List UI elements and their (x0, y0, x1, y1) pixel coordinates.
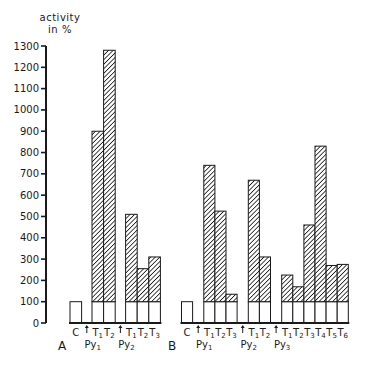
x-category-label: T2 (214, 327, 226, 340)
bar-hatched-segment (137, 269, 149, 302)
bar (226, 294, 237, 323)
arrow-head-icon (85, 325, 89, 328)
y-tick-label: 200 (20, 275, 39, 286)
x-category-label: C (184, 327, 191, 338)
bar-hatched-segment (326, 265, 337, 301)
bar-base (137, 302, 149, 323)
panel-a: CT1T2Py1T1T2T3Py2 (69, 50, 161, 352)
arrow-head-icon (274, 325, 278, 328)
y-tick-label: 1300 (14, 41, 39, 52)
bar-hatched-segment (92, 131, 104, 301)
bar-base (259, 302, 270, 323)
bar-base (149, 302, 161, 323)
bar-base (293, 302, 304, 323)
bar-hatched-segment (282, 275, 293, 302)
activity-bar-chart: activity in % 01002003004005006007008009… (0, 0, 367, 365)
bar (149, 257, 161, 323)
bar-hatched-segment (126, 214, 138, 301)
x-category-label: T2 (103, 327, 115, 340)
bar-base (248, 302, 259, 323)
group-label: Py1 (196, 339, 212, 352)
bar (182, 302, 193, 323)
group-label: Py2 (240, 339, 256, 352)
x-category-label: C (72, 327, 79, 338)
panel-label-b: B (168, 339, 176, 353)
bar-hatched-segment (104, 50, 116, 301)
bar-base (226, 302, 237, 323)
bar-control (182, 302, 193, 323)
arrow-head-icon (118, 325, 122, 328)
bar-base (104, 302, 116, 323)
arrow-head-icon (241, 325, 245, 328)
bar-base (337, 302, 348, 323)
x-category-label: T2 (292, 327, 304, 340)
bar (126, 214, 138, 323)
bar-hatched-segment (315, 146, 326, 302)
y-tick-label: 1000 (14, 104, 39, 115)
y-tick-label: 900 (20, 126, 39, 137)
bar (315, 146, 326, 323)
y-tick-label: 700 (20, 168, 39, 179)
bar-base (92, 302, 104, 323)
bar (248, 180, 259, 323)
bar-hatched-segment (215, 211, 226, 302)
bar (204, 165, 215, 323)
bar-base (215, 302, 226, 323)
x-category-label: T6 (336, 327, 348, 340)
x-category-label: T2 (137, 327, 149, 340)
bar-base (204, 302, 215, 323)
bar-base (326, 302, 337, 323)
bar-hatched-segment (226, 294, 237, 301)
bar (70, 302, 82, 323)
bar-hatched-segment (304, 225, 315, 302)
bar-base (315, 302, 326, 323)
bar (137, 269, 149, 323)
bar (259, 257, 270, 323)
bar-control (70, 302, 82, 323)
y-axis-title-line2: in % (48, 24, 72, 35)
bar (326, 265, 337, 323)
group-label: Py1 (85, 339, 101, 352)
bar (215, 211, 226, 323)
y-tick-label: 1200 (14, 62, 39, 73)
bar (282, 275, 293, 323)
panel-b: CT1T2T3Py1T1T2Py2T1T2T3T4T5T6Py3 (181, 146, 350, 352)
y-axis: 0100200300400500600700800900100011001200… (14, 41, 46, 329)
arrow-head-icon (196, 325, 200, 328)
bar-hatched-segment (248, 180, 259, 301)
bar-hatched-segment (259, 257, 270, 302)
y-tick-label: 400 (20, 232, 39, 243)
y-axis-title-line1: activity (40, 12, 81, 23)
bar (92, 131, 104, 323)
y-tick-label: 600 (20, 190, 39, 201)
y-tick-label: 0 (33, 318, 39, 329)
bar (293, 287, 304, 323)
bar-hatched-segment (204, 165, 215, 301)
bar-hatched-segment (337, 264, 348, 301)
bar-base (126, 302, 138, 323)
bar-base (304, 302, 315, 323)
y-tick-label: 300 (20, 254, 39, 265)
x-category-label: T3 (225, 327, 237, 340)
y-tick-label: 1100 (14, 83, 39, 94)
bar-base (282, 302, 293, 323)
y-tick-label: 100 (20, 296, 39, 307)
x-category-label: T3 (148, 327, 160, 340)
y-tick-label: 500 (20, 211, 39, 222)
y-tick-label: 800 (20, 147, 39, 158)
panel-label-a: A (58, 339, 67, 353)
x-category-label: T5 (325, 327, 337, 340)
x-category-label: T4 (314, 327, 326, 340)
x-category-label: T2 (259, 327, 271, 340)
bar-hatched-segment (149, 257, 161, 302)
group-label: Py3 (274, 339, 290, 352)
x-category-label: T3 (303, 327, 315, 340)
bar (104, 50, 116, 323)
bar (337, 264, 348, 323)
bar-hatched-segment (293, 287, 304, 302)
bar (304, 225, 315, 323)
chart-canvas: activity in % 01002003004005006007008009… (0, 0, 367, 365)
group-label: Py2 (118, 339, 134, 352)
